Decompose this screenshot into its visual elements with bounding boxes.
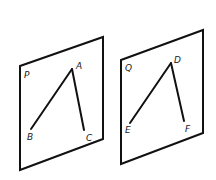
- point-e-label: E: [125, 125, 131, 135]
- plane-p: P A B C: [20, 37, 103, 170]
- point-f-label: F: [185, 124, 191, 134]
- point-d-label: D: [174, 55, 181, 65]
- point-b-label: B: [27, 132, 33, 142]
- two-planes-diagram: P A B C Q D E F: [0, 0, 216, 180]
- segment-df: [171, 63, 184, 121]
- segment-de: [130, 63, 171, 123]
- plane-p-label: P: [24, 70, 30, 80]
- segment-ac: [72, 69, 84, 130]
- plane-q: Q D E F: [121, 30, 203, 164]
- point-a-label: A: [75, 61, 82, 71]
- plane-p-outline: [20, 37, 103, 170]
- plane-q-outline: [121, 30, 203, 164]
- plane-q-label: Q: [125, 63, 132, 73]
- segment-ab: [31, 69, 72, 129]
- point-c-label: C: [86, 133, 93, 143]
